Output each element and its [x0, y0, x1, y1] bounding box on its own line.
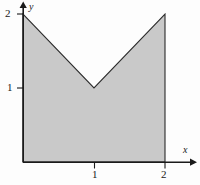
y-tick-label-1: 1: [7, 82, 13, 93]
y-axis-arrow-icon: [20, 2, 27, 9]
y-tick-label-2: 2: [5, 8, 11, 19]
x-tick-label-1: 1: [92, 169, 98, 180]
x-axis-name-label: x: [183, 145, 187, 155]
shaded-region: [23, 14, 165, 162]
x-axis-arrow-icon: [190, 159, 197, 166]
figure-container: 2 1 1 2 y x: [0, 0, 200, 185]
x-tick-label-2: 2: [161, 169, 167, 180]
y-axis-name-label: y: [29, 2, 33, 12]
plot-canvas: [0, 0, 200, 185]
